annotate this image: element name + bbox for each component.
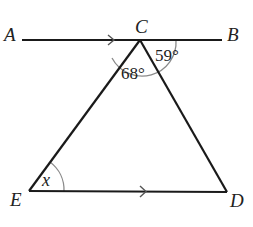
side-cd xyxy=(140,40,227,192)
angle-label-ced: x xyxy=(41,170,50,190)
angle-label-dcb: 59° xyxy=(155,46,179,65)
label-e: E xyxy=(9,189,22,210)
side-ed xyxy=(29,191,227,192)
angle-arc-ced xyxy=(50,162,64,191)
label-c: C xyxy=(135,16,148,37)
geometry-diagram: A B C D E 68° 59° x xyxy=(0,0,253,227)
label-b: B xyxy=(227,24,239,45)
label-a: A xyxy=(2,24,16,45)
side-ce xyxy=(29,40,140,191)
angle-label-ecd: 68° xyxy=(121,64,145,83)
label-d: D xyxy=(229,190,244,211)
